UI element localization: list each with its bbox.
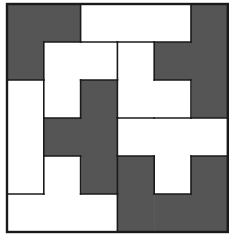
tiling-puzzle-board [0,0,240,237]
piece-light-top-bar [81,4,192,43]
piece-light-left-column [7,80,44,195]
